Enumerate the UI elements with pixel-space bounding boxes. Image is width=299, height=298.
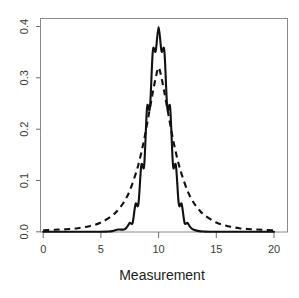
x-axis-title: Measurement xyxy=(119,267,205,283)
plot-canvas: 0.4 0.3 0.2 0.1 0.0 0 5 10 15 20 Measure… xyxy=(0,0,299,298)
x-tick-label-1: 5 xyxy=(98,243,104,255)
density-plot-figure: 0.4 0.3 0.2 0.1 0.0 0 5 10 15 20 Measure… xyxy=(0,0,299,298)
solid-density-curve xyxy=(43,27,274,232)
y-axis-tick-labels: 0.4 0.3 0.2 0.1 0.0 xyxy=(18,19,30,240)
x-tick-label-0: 0 xyxy=(40,243,46,255)
y-tick-label-3: 0.3 xyxy=(18,70,30,85)
dashed-density-curve xyxy=(43,68,274,231)
y-tick-label-0: 0.0 xyxy=(18,224,30,239)
x-axis-ticks xyxy=(43,232,274,238)
x-tick-label-3: 15 xyxy=(210,243,222,255)
x-axis-tick-labels: 0 5 10 15 20 xyxy=(40,243,280,255)
y-tick-label-4: 0.4 xyxy=(18,19,30,34)
y-tick-label-1: 0.1 xyxy=(18,173,30,188)
x-tick-label-2: 10 xyxy=(152,243,164,255)
y-tick-label-2: 0.2 xyxy=(18,122,30,137)
y-axis-ticks xyxy=(36,27,41,232)
x-tick-label-4: 20 xyxy=(268,243,280,255)
